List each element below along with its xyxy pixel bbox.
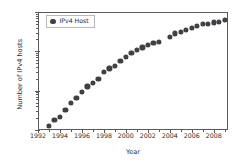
data-point [118, 59, 123, 64]
y-tick-minor [36, 55, 38, 56]
data-point [211, 20, 216, 25]
y-tick-minor [36, 57, 38, 58]
data-point [96, 77, 101, 82]
data-point [85, 84, 90, 89]
axis-spine-right [227, 12, 228, 130]
y-tick-minor [36, 106, 38, 107]
data-point [151, 40, 156, 45]
data-point [206, 21, 211, 26]
y-tick-minor [36, 92, 38, 93]
y-tick-minor [36, 103, 38, 104]
y-tick-minor [36, 16, 38, 17]
data-point [63, 108, 68, 113]
x-tick-minor [115, 130, 116, 132]
y-tick-minor [36, 28, 38, 29]
data-point [217, 19, 222, 24]
data-point [52, 117, 57, 122]
x-tick-minor [181, 130, 182, 132]
x-tick-minor [93, 130, 94, 132]
y-tick-minor [36, 94, 38, 95]
axis-spine-top [38, 12, 228, 13]
x-tick-label: 1998 [96, 133, 112, 139]
data-point [200, 22, 205, 27]
y-tick-minor [36, 63, 38, 64]
y-tick-minor [36, 18, 38, 19]
x-tick-label: 1994 [52, 133, 68, 139]
data-point [123, 54, 128, 59]
data-point [46, 123, 51, 128]
data-point [57, 114, 62, 119]
data-point [140, 45, 145, 50]
circle-marker-icon [50, 19, 56, 25]
x-tick-label: 2004 [162, 133, 178, 139]
data-point [145, 42, 150, 47]
data-point [184, 27, 189, 32]
y-tick-minor [36, 21, 38, 22]
plot-area: 106107108109 199219941996199820002002200… [38, 12, 228, 130]
axis-spine-left [38, 12, 39, 130]
x-tick-label: 2006 [184, 133, 200, 139]
data-point [74, 95, 79, 100]
data-point [129, 50, 134, 55]
y-tick-minor [36, 97, 38, 98]
y-tick-major-inner [38, 91, 40, 92]
y-tick-minor [36, 79, 38, 80]
data-point [101, 69, 106, 74]
y-tick-minor [36, 39, 38, 40]
y-tick-minor [36, 14, 38, 15]
y-tick-minor [36, 111, 38, 112]
axis-spine-bottom [38, 129, 228, 130]
y-tick-minor [36, 53, 38, 54]
x-tick-minor [137, 130, 138, 132]
x-tick-label: 1992 [30, 133, 46, 139]
data-point [178, 29, 183, 34]
y-tick-minor [36, 60, 38, 61]
data-point [156, 40, 161, 45]
data-point [134, 47, 139, 52]
y-tick-minor [36, 72, 38, 73]
y-tick-minor [36, 118, 38, 119]
x-tick-label: 2002 [140, 133, 156, 139]
x-tick-minor [225, 130, 226, 132]
data-point [195, 24, 200, 29]
x-tick-label: 1996 [74, 133, 90, 139]
y-tick-minor [36, 67, 38, 68]
data-point [189, 25, 194, 30]
data-point [167, 34, 172, 39]
data-point [112, 63, 117, 68]
x-axis-title: Year [38, 149, 228, 156]
x-tick-minor [159, 130, 160, 132]
x-tick-label: 2000 [118, 133, 134, 139]
data-point [68, 100, 73, 105]
x-tick-minor [203, 130, 204, 132]
y-tick-major-inner [38, 12, 40, 13]
data-point [90, 80, 95, 85]
chart-legend: IPv4 Host [46, 15, 95, 28]
y-tick-minor [36, 24, 38, 25]
y-axis-title: Number of IPv4 hosts [17, 15, 24, 133]
data-point [173, 31, 178, 36]
x-tick-minor [71, 130, 72, 132]
data-point [79, 89, 84, 94]
data-point [107, 66, 112, 71]
legend-entry-label: IPv4 Host [60, 18, 89, 24]
x-tick-minor [49, 130, 50, 132]
x-tick-label: 2008 [206, 133, 222, 139]
y-tick-major-inner [38, 51, 40, 52]
y-tick-minor [36, 33, 38, 34]
figure-canvas: Number of IPv4 hosts Year 106107108109 1… [0, 0, 242, 166]
y-tick-minor [36, 99, 38, 100]
